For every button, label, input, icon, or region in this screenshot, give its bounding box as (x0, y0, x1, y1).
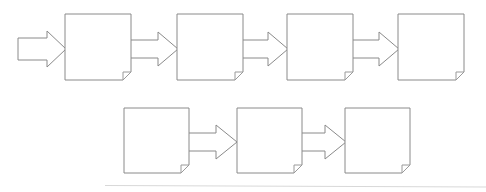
node-3[interactable] (287, 14, 353, 80)
arrow-node-5-to-node-6 (189, 125, 237, 159)
node-2[interactable] (177, 14, 243, 80)
flowchart-canvas (0, 0, 486, 192)
node-6[interactable] (237, 108, 302, 173)
arrow-node-2-to-node-3 (243, 32, 288, 66)
flowchart-svg (0, 0, 486, 192)
scan-artifact-line (105, 186, 486, 188)
node-4[interactable] (398, 14, 464, 80)
node-1[interactable] (65, 14, 131, 80)
arrow-node-1-to-node-2 (131, 32, 178, 66)
node-7[interactable] (345, 108, 410, 173)
arrow-node-6-to-node-7 (302, 125, 346, 159)
node-5[interactable] (124, 108, 189, 173)
arrow-node-3-to-node-4 (353, 32, 399, 66)
entry-arrow (18, 31, 66, 67)
